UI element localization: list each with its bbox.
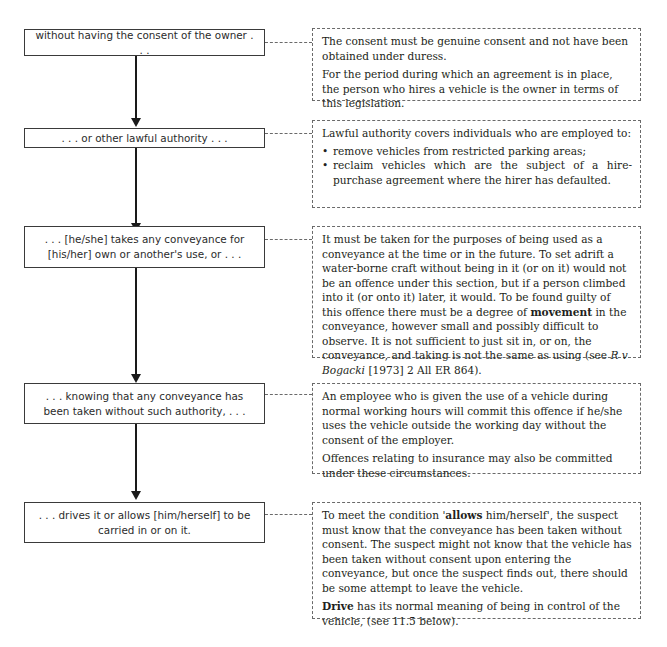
flow-step-label: without having the consent of the owner … <box>33 28 256 58</box>
note-paragraph: To meet the condition 'allows him/hersel… <box>322 508 632 595</box>
note-bold-term: allows <box>445 509 482 521</box>
connector-line <box>265 133 312 134</box>
flow-step-knowing: . . . knowing that any conveyance has be… <box>24 383 265 424</box>
note-bold-term: movement <box>530 306 592 318</box>
arrowhead-icon <box>131 374 141 383</box>
connector-line <box>265 394 312 395</box>
connector-line <box>265 42 312 43</box>
flow-step-label: . . . drives it or allows [him/herself] … <box>33 508 256 538</box>
note-bullet-item: remove vehicles from restricted parking … <box>322 144 632 159</box>
arrow-down-icon <box>135 56 137 120</box>
note-bullet-item: reclaim vehicles which are the subject o… <box>322 158 632 187</box>
flow-step-consent: without having the consent of the owner … <box>24 29 265 56</box>
flow-step-takes-conveyance: . . . [he/she] takes any conveyance for … <box>24 226 265 268</box>
flow-step-lawful-authority: . . . or other lawful authority . . . <box>24 128 265 148</box>
flow-step-label: . . . knowing that any conveyance has be… <box>33 389 256 419</box>
note-paragraph: It must be taken for the purposes of bei… <box>322 232 632 377</box>
note-paragraph: The consent must be genuine consent and … <box>322 34 632 63</box>
arrowhead-icon <box>131 118 141 127</box>
note-lawful-authority: Lawful authority covers individuals who … <box>312 120 641 208</box>
note-knowing: An employee who is given the use of a ve… <box>312 383 641 474</box>
connector-line <box>265 239 312 240</box>
flow-step-label: . . . [he/she] takes any conveyance for … <box>33 232 256 262</box>
arrow-down-icon <box>135 148 137 225</box>
case-citation: [1973] 2 All ER 864). <box>365 364 482 376</box>
note-text: him/herself', the suspect must know that… <box>322 509 632 594</box>
note-takes-conveyance: It must be taken for the purposes of bei… <box>312 226 641 358</box>
note-paragraph: Lawful authority covers individuals who … <box>322 126 632 141</box>
arrowhead-icon <box>131 491 141 500</box>
flow-step-label: . . . or other lawful authority . . . <box>61 131 227 146</box>
note-bold-term: Drive <box>322 600 354 612</box>
note-consent: The consent must be genuine consent and … <box>312 28 641 101</box>
note-paragraph: For the period during which an agreement… <box>322 67 632 111</box>
note-paragraph: Offences relating to insurance may also … <box>322 451 632 480</box>
note-bullet-list: remove vehicles from restricted parking … <box>322 144 632 188</box>
note-text: has its normal meaning of being in contr… <box>322 600 620 627</box>
note-paragraph: Drive has its normal meaning of being in… <box>322 599 632 628</box>
note-drives: To meet the condition 'allows him/hersel… <box>312 502 641 619</box>
arrow-down-icon <box>135 424 137 493</box>
connector-line <box>265 514 312 515</box>
note-paragraph: An employee who is given the use of a ve… <box>322 389 632 447</box>
flow-step-drives: . . . drives it or allows [him/herself] … <box>24 502 265 543</box>
note-text: To meet the condition ' <box>322 509 445 521</box>
arrow-down-icon <box>135 268 137 376</box>
